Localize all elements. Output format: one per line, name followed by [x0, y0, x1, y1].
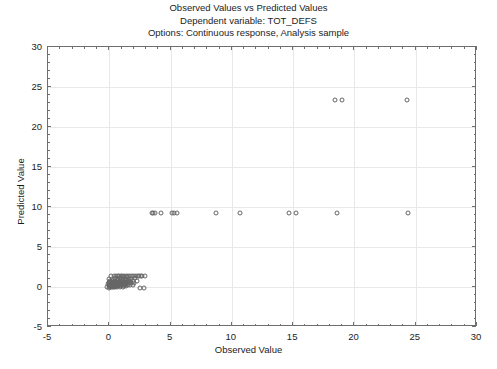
- y-axis-tick: [472, 326, 476, 327]
- y-axis-tick: [472, 166, 476, 167]
- y-axis-tick: [474, 318, 477, 319]
- x-axis-tick: [108, 322, 109, 326]
- y-axis-tick: [47, 302, 50, 303]
- y-axis-tick: [474, 110, 477, 111]
- plot-area: [47, 46, 476, 326]
- scatter-point: [158, 211, 163, 216]
- scatter-point: [287, 211, 292, 216]
- x-axis-tick: [182, 324, 183, 327]
- y-axis-tick: [47, 326, 51, 327]
- x-axis-tick: [59, 46, 60, 49]
- scatter-point: [340, 98, 345, 103]
- y-axis-tick: [47, 278, 50, 279]
- x-axis-tick-label: 20: [348, 331, 359, 342]
- x-axis-tick: [439, 324, 440, 327]
- y-axis-tick-label: 20: [15, 121, 42, 132]
- x-axis-tick: [170, 46, 171, 50]
- x-axis-tick-label: 0: [106, 331, 111, 342]
- x-axis-tick: [255, 324, 256, 327]
- x-axis-tick-label: 25: [409, 331, 420, 342]
- x-axis-tick: [304, 324, 305, 327]
- x-axis-title: Observed Value: [0, 344, 497, 355]
- y-axis-tick: [47, 182, 50, 183]
- y-axis-tick: [47, 46, 51, 47]
- y-axis-tick: [474, 62, 477, 63]
- x-axis-tick: [366, 46, 367, 49]
- x-axis-tick: [182, 46, 183, 49]
- y-axis-tick-label: 25: [15, 81, 42, 92]
- y-axis-tick: [47, 70, 50, 71]
- x-axis-tick: [84, 324, 85, 327]
- y-axis-tick: [47, 94, 50, 95]
- y-axis-tick: [47, 126, 51, 127]
- y-axis-tick: [474, 150, 477, 151]
- chart-title: Observed Values vs Predicted Values: [0, 2, 497, 15]
- y-axis-tick: [474, 270, 477, 271]
- y-axis-tick: [47, 198, 50, 199]
- x-axis-tick: [353, 46, 354, 50]
- chart-title-block: Observed Values vs Predicted Values Depe…: [0, 2, 497, 40]
- y-axis-tick: [474, 302, 477, 303]
- y-axis-tick: [47, 270, 50, 271]
- x-axis-tick: [243, 46, 244, 49]
- x-axis-tick: [231, 46, 232, 50]
- y-axis-tick: [474, 310, 477, 311]
- y-axis-tick-label: 30: [15, 41, 42, 52]
- gridline-vertical: [232, 47, 233, 325]
- y-axis-tick: [474, 198, 477, 199]
- x-axis-tick: [341, 46, 342, 49]
- x-axis-tick: [145, 324, 146, 327]
- chart-root: Observed Values vs Predicted Values Depe…: [0, 0, 497, 369]
- gridline-horizontal: [48, 87, 475, 88]
- y-axis-tick: [474, 262, 477, 263]
- y-axis-tick: [472, 46, 476, 47]
- x-axis-tick-label: 30: [471, 331, 482, 342]
- gridline-horizontal: [48, 167, 475, 168]
- x-axis-tick: [464, 324, 465, 327]
- x-axis-tick: [476, 46, 477, 50]
- y-axis-tick: [474, 230, 477, 231]
- y-axis-tick-label: 0: [15, 281, 42, 292]
- x-axis-tick: [353, 322, 354, 326]
- y-axis-tick: [47, 150, 50, 151]
- y-axis-tick: [474, 294, 477, 295]
- scatter-point: [238, 211, 243, 216]
- y-axis-tick: [474, 78, 477, 79]
- x-axis-tick-label: 10: [226, 331, 237, 342]
- x-axis-tick: [378, 46, 379, 49]
- y-axis-tick: [47, 254, 50, 255]
- x-axis-tick: [121, 46, 122, 49]
- y-axis-tick: [474, 142, 477, 143]
- y-axis-tick: [474, 54, 477, 55]
- y-axis-tick: [47, 190, 50, 191]
- y-axis-tick: [47, 206, 51, 207]
- y-axis-tick: [47, 174, 50, 175]
- y-axis-tick: [472, 286, 476, 287]
- x-axis-tick: [206, 46, 207, 49]
- scatter-point: [134, 279, 139, 284]
- x-axis-tick: [206, 324, 207, 327]
- x-axis-tick: [329, 324, 330, 327]
- y-axis-tick: [474, 134, 477, 135]
- y-axis-tick: [474, 214, 477, 215]
- x-axis-tick: [292, 46, 293, 50]
- y-axis-tick: [474, 94, 477, 95]
- x-axis-tick: [72, 324, 73, 327]
- y-axis-tick: [47, 78, 50, 79]
- scatter-point: [153, 211, 158, 216]
- x-axis-tick: [366, 324, 367, 327]
- x-axis-tick: [427, 324, 428, 327]
- y-axis-tick: [47, 318, 50, 319]
- scatter-point: [406, 211, 411, 216]
- scatter-point: [332, 98, 337, 103]
- x-axis-tick-label: 5: [167, 331, 172, 342]
- x-axis-tick: [390, 324, 391, 327]
- y-axis-tick: [474, 222, 477, 223]
- gridline-horizontal: [48, 247, 475, 248]
- scatter-point: [213, 211, 218, 216]
- x-axis-tick: [219, 46, 220, 49]
- x-axis-tick: [390, 46, 391, 49]
- x-axis-tick: [108, 46, 109, 50]
- x-axis-tick: [194, 46, 195, 49]
- scatter-point: [141, 285, 146, 290]
